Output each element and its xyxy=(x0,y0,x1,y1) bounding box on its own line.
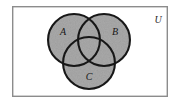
set-b-label: B xyxy=(112,26,118,37)
set-c-label: C xyxy=(86,71,93,82)
set-a-label: A xyxy=(59,26,67,37)
universal-set-label: U xyxy=(154,14,162,25)
venn-diagram-figure: U A B C xyxy=(0,0,179,106)
venn-diagram-canvas: U A B C xyxy=(0,0,179,106)
